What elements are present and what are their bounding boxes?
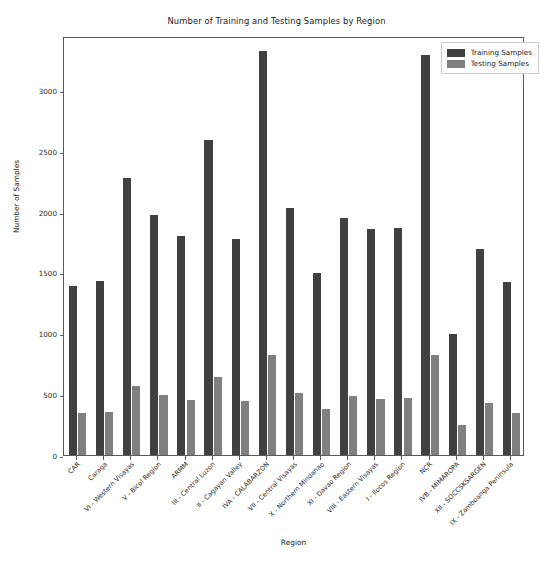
testing-bar [132,386,140,455]
testing-bar [214,377,222,455]
training-bar [150,215,158,455]
y-axis-tick-label: 1500 [39,269,57,278]
training-bar [177,236,185,455]
testing-bar [431,355,439,455]
x-axis-tick-mark [185,456,186,460]
legend-label: Testing Samples [471,59,529,68]
training-bar [340,218,348,455]
x-axis-tick-label: NCR [419,461,434,476]
x-axis-tick-mark [157,456,158,460]
y-axis-tick-label: 1000 [39,330,57,339]
x-axis-tick-mark [374,456,375,460]
training-bar [232,239,240,455]
training-bar [313,273,321,455]
training-bar [503,282,511,455]
testing-bar [512,413,520,456]
x-axis-tick-label: ARMM [171,461,190,480]
y-axis-tick-label: 3000 [39,87,57,96]
x-axis-tick-mark [401,456,402,460]
training-bar [367,229,375,455]
testing-bar [485,403,493,455]
legend-label: Training Samples [471,48,532,57]
bars-layer [64,38,523,455]
y-axis-ticks: 050010001500200025003000 [0,37,63,457]
x-axis-tick-mark [103,456,104,460]
training-bar [96,281,104,455]
x-axis-tick-mark [347,456,348,460]
testing-bar [404,398,412,455]
x-axis-tick-mark [456,456,457,460]
y-axis-tick-label: 2500 [39,148,57,157]
y-axis-tick-label: 2000 [39,209,57,218]
x-axis-tick-mark [320,456,321,460]
legend-entry: Testing Samples [447,58,532,69]
x-axis-tick-label: VII - Central Visayas [247,461,298,512]
x-axis-tick-mark [130,456,131,460]
testing-bar [268,355,276,455]
x-axis-ticks: CARCaragaVI - Western VisayasV - Bicol R… [63,456,524,566]
training-bar [476,249,484,455]
x-axis-tick-mark [266,456,267,460]
y-axis-tick-label: 500 [43,391,57,400]
chart-legend: Training SamplesTesting Samples [441,42,539,74]
testing-bar [295,393,303,455]
legend-entry: Training Samples [447,47,532,58]
x-axis-tick-label: VIII - Eastern Visayas [326,461,380,515]
x-axis-tick-label: Caraga [87,461,108,482]
training-bar [286,208,294,455]
training-bar [394,228,402,455]
legend-swatch-icon [447,49,465,57]
testing-bar [322,409,330,455]
x-axis-tick-mark [239,456,240,460]
x-axis-label: Region [63,538,524,547]
training-bar [123,178,131,455]
chart-title: Number of Training and Testing Samples b… [0,16,553,26]
training-bar [259,51,267,455]
x-axis-tick-mark [429,456,430,460]
bar-chart-figure: Number of Training and Testing Samples b… [0,0,553,571]
testing-bar [105,412,113,455]
training-bar [421,55,429,455]
training-bar [204,140,212,455]
x-axis-tick-mark [293,456,294,460]
x-axis-tick-mark [212,456,213,460]
testing-bar [376,399,384,455]
testing-bar [458,425,466,455]
legend-swatch-icon [447,60,465,68]
testing-bar [187,400,195,455]
plot-area [63,37,524,456]
testing-bar [78,413,86,456]
y-axis-tick-label: 0 [52,452,57,461]
x-axis-tick-mark [483,456,484,460]
x-axis-tick-label: VI - Western Visayas [83,461,135,513]
testing-bar [349,396,357,456]
training-bar [69,286,77,455]
x-axis-tick-mark [510,456,511,460]
testing-bar [159,395,167,455]
training-bar [449,334,457,455]
testing-bar [241,401,249,455]
x-axis-tick-label: CAR [67,461,81,475]
